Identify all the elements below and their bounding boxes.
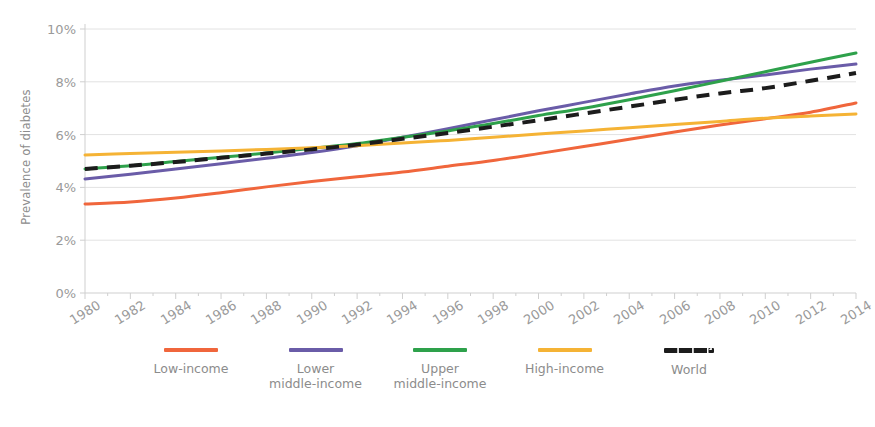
x-tick-label: 2004 xyxy=(611,297,647,327)
legend-label: Lower middle-income xyxy=(269,361,362,391)
legend-item-world[interactable]: World xyxy=(628,348,750,377)
legend-item-lower-middle-income[interactable]: Lower middle-income xyxy=(255,348,377,391)
legend-label: Upper middle-income xyxy=(394,361,487,391)
legend-item-low-income[interactable]: Low-income xyxy=(130,348,252,376)
x-tick-label: 1996 xyxy=(430,297,466,327)
x-tick-label: 1990 xyxy=(294,297,330,327)
x-tick-label: 2012 xyxy=(793,297,829,327)
x-tick-label: 1984 xyxy=(158,297,194,327)
chart-figure: Prevalence of diabetes 10%8%6%4%2%0% 198… xyxy=(0,0,875,427)
x-tick-label: 1994 xyxy=(384,297,420,327)
x-tick-label: 1986 xyxy=(203,297,239,327)
legend-swatch-icon xyxy=(538,348,592,352)
x-tick-label: 2000 xyxy=(521,297,557,327)
x-tick-label: 1980 xyxy=(67,297,103,327)
x-tick-label: 2014 xyxy=(838,297,874,327)
x-tick-label: 1998 xyxy=(475,297,511,327)
x-tick-label: 1992 xyxy=(339,297,375,327)
x-tick-label: 2008 xyxy=(702,297,738,327)
legend-label: Low-income xyxy=(154,361,229,376)
x-tick-label: 2010 xyxy=(747,297,783,327)
x-tick-label: 2002 xyxy=(566,297,602,327)
x-tick-label: 2006 xyxy=(657,297,693,327)
legend-label: World xyxy=(671,362,707,377)
legend-item-high-income[interactable]: High-income xyxy=(504,348,626,376)
chart-legend: Low-incomeLower middle-incomeUpper middl… xyxy=(130,348,750,426)
x-tick-label: 1988 xyxy=(248,297,284,327)
legend-swatch-icon xyxy=(664,348,714,353)
legend-swatch-icon xyxy=(289,348,343,352)
legend-swatch-icon xyxy=(413,348,467,352)
legend-item-upper-middle-income[interactable]: Upper middle-income xyxy=(379,348,501,391)
legend-swatch-icon xyxy=(164,348,218,352)
x-tick-label: 1982 xyxy=(112,297,148,327)
legend-label: High-income xyxy=(525,361,604,376)
